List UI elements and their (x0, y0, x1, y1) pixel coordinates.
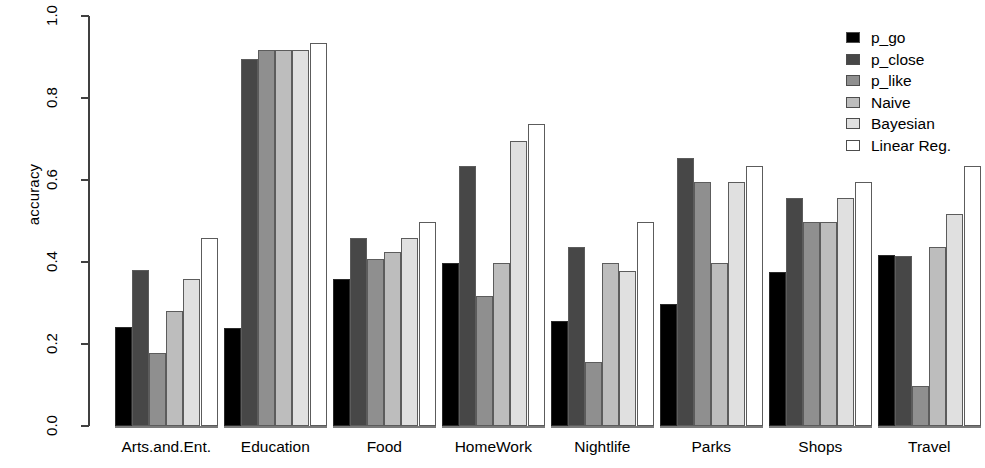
bar (310, 43, 327, 426)
bar-group-baseline (115, 426, 218, 428)
bar-group-baseline (878, 426, 981, 428)
bar (637, 222, 654, 426)
bar (711, 263, 728, 426)
bar (619, 271, 636, 426)
legend-swatch-icon (846, 140, 860, 151)
y-axis-label: accuracy (25, 140, 42, 250)
y-axis-tick-label: 0.8 (43, 75, 60, 121)
legend-item: Naive (846, 92, 977, 114)
bar (585, 362, 602, 426)
bar (419, 222, 436, 426)
bar (568, 247, 585, 426)
bar-group (333, 16, 436, 426)
legend-label: Bayesian (871, 116, 935, 132)
bar (442, 263, 459, 426)
bar-group-baseline (551, 426, 654, 428)
bar (132, 270, 149, 426)
bar (837, 198, 854, 426)
bar (350, 238, 367, 426)
legend-swatch-icon (846, 75, 860, 86)
bar (149, 353, 166, 426)
legend-swatch-icon (846, 54, 860, 65)
bar (602, 263, 619, 426)
bar (510, 141, 527, 426)
bar (333, 279, 350, 426)
legend-label: p_like (871, 73, 912, 89)
bar (201, 238, 218, 426)
bar (878, 255, 895, 426)
bar (660, 304, 677, 426)
bar (528, 124, 545, 426)
bar (241, 59, 258, 426)
x-axis-label: Travel (849, 438, 985, 456)
bar (746, 166, 763, 426)
bar (476, 296, 493, 426)
legend-swatch-icon (846, 32, 860, 43)
legend-swatch-icon (846, 118, 860, 129)
legend-item: Bayesian (846, 113, 977, 135)
bar-group (224, 16, 327, 426)
bar (964, 166, 981, 426)
bar (677, 158, 694, 426)
legend-label: p_close (871, 52, 924, 68)
bar-group (660, 16, 763, 426)
y-axis-tick-label: 0.2 (43, 321, 60, 367)
bar-group (115, 16, 218, 426)
bar (769, 272, 786, 426)
bar (820, 222, 837, 426)
bar-group-baseline (333, 426, 436, 428)
legend-label: Linear Reg. (871, 138, 951, 154)
bar (946, 214, 963, 426)
bar (275, 50, 292, 426)
legend-label: p_go (871, 30, 905, 46)
bar (786, 198, 803, 426)
bar (224, 328, 241, 426)
bar (183, 279, 200, 426)
bar (929, 247, 946, 426)
bar (367, 259, 384, 426)
legend-item: Linear Reg. (846, 135, 977, 157)
bar (493, 263, 510, 426)
bar (895, 256, 912, 426)
y-axis-tick-label: 0.6 (43, 157, 60, 203)
bar (401, 238, 418, 426)
bar-group-baseline (660, 426, 763, 428)
bar (292, 50, 309, 426)
plot-area (88, 16, 977, 426)
legend-label: Naive (871, 95, 911, 111)
bar-group (442, 16, 545, 426)
y-axis-tick-label: 0.0 (43, 403, 60, 449)
bar (166, 311, 183, 426)
bar (912, 386, 929, 426)
bar (803, 222, 820, 426)
bar (855, 182, 872, 426)
bar (459, 166, 476, 426)
bar (694, 182, 711, 426)
bar-group-baseline (769, 426, 872, 428)
legend-item: p_go (846, 27, 977, 49)
bar (115, 327, 132, 426)
bar (728, 182, 745, 426)
bar-group-baseline (442, 426, 545, 428)
bar-group-baseline (224, 426, 327, 428)
bar (258, 50, 275, 426)
legend-item: p_like (846, 70, 977, 92)
y-axis-tick-label: 1.0 (43, 0, 60, 39)
bar (551, 321, 568, 426)
chart-legend: p_gop_closep_likeNaiveBayesianLinear Reg… (846, 27, 977, 156)
bar (384, 252, 401, 426)
y-axis-tick-label: 0.4 (43, 239, 60, 285)
bar-group (551, 16, 654, 426)
legend-swatch-icon (846, 97, 860, 108)
legend-item: p_close (846, 49, 977, 71)
